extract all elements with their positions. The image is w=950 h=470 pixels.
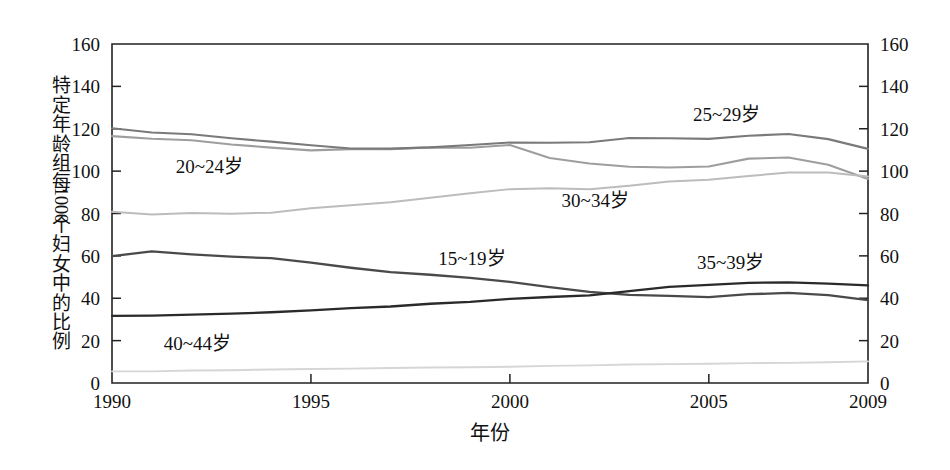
y-axis-title-glyph: 组 (52, 154, 71, 173)
svg-text:80: 80 (880, 204, 899, 225)
y-axis-title-glyph: 中 (52, 274, 71, 293)
series-label-20~24岁: 20~24岁 (176, 156, 243, 177)
series-label-15~19岁: 15~19岁 (438, 248, 505, 269)
x-axis-ticks: 19901995200020052009 (93, 374, 887, 412)
y-axis-title-glyph: 的 (52, 294, 71, 313)
svg-text:40: 40 (81, 288, 100, 309)
svg-text:60: 60 (880, 246, 899, 267)
svg-text:100: 100 (880, 161, 909, 182)
y-axis-title-glyph: 例 (52, 332, 71, 351)
svg-text:1995: 1995 (292, 391, 330, 412)
x-axis-title: 年份 (470, 422, 510, 444)
y-axis-title: 特定年龄组每1000个妇女中的比例 (44, 44, 78, 384)
y-axis-left-ticks: 020406080100120140160 (72, 34, 122, 394)
series-label-40~44岁: 40~44岁 (164, 333, 231, 354)
y-axis-title-glyph: 特 (52, 76, 71, 95)
y-axis-title-glyph: 1000 (51, 186, 70, 222)
svg-text:20: 20 (880, 331, 899, 352)
series-label-30~34岁: 30~34岁 (562, 190, 629, 211)
svg-text:160: 160 (880, 34, 909, 55)
svg-text:120: 120 (880, 119, 909, 140)
svg-text:20: 20 (81, 331, 100, 352)
svg-text:2000: 2000 (491, 391, 529, 412)
y-axis-title-glyph: 比 (52, 313, 71, 332)
svg-text:40: 40 (880, 288, 899, 309)
svg-text:2005: 2005 (690, 391, 728, 412)
series-label-35~39岁: 35~39岁 (697, 252, 764, 273)
series-line-35~39岁 (112, 282, 868, 315)
chart-figure: 020406080100120140160 020406080100120140… (0, 0, 950, 470)
svg-text:2009: 2009 (849, 391, 887, 412)
y-axis-title-glyph: 年 (52, 115, 71, 134)
y-axis-title-glyph: 女 (52, 255, 71, 274)
series-label-25~29岁: 25~29岁 (693, 104, 760, 125)
y-axis-right-ticks: 020406080100120140160 (859, 34, 909, 394)
chart-svg: 020406080100120140160 020406080100120140… (0, 0, 950, 470)
series-line-30~34岁 (112, 173, 868, 215)
y-axis-title-glyph: 龄 (52, 135, 71, 154)
y-axis-title-glyph: 定 (52, 96, 71, 115)
series-annotations: 15~19岁20~24岁25~29岁30~34岁35~39岁40~44岁 (164, 104, 764, 354)
svg-text:80: 80 (81, 204, 100, 225)
series-line-40~44岁 (112, 361, 868, 371)
svg-text:60: 60 (81, 246, 100, 267)
y-axis-title-glyph: 妇 (52, 235, 71, 254)
svg-text:1990: 1990 (93, 391, 131, 412)
svg-text:140: 140 (880, 76, 909, 97)
